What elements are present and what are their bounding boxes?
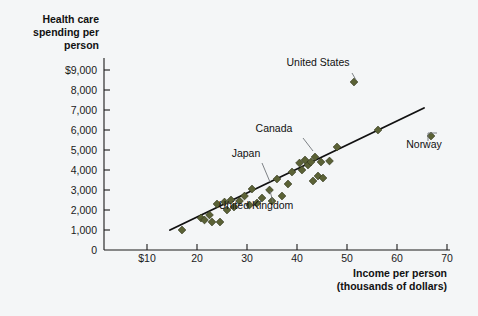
point-annotation-label: Japan <box>232 147 261 159</box>
y-axis-title-line3: person <box>64 39 99 51</box>
trend-line <box>170 108 424 230</box>
trend-line-segment <box>170 108 424 230</box>
x-tick-label: 60 <box>391 252 403 264</box>
chart-page: 01,0002,0003,0004,0005,0006,0007,0008,00… <box>0 0 478 316</box>
y-tick-label: 3,000 <box>71 184 97 196</box>
point-annotation-label: Canada <box>256 122 293 134</box>
y-tick-label: $9,000 <box>65 64 97 76</box>
point-annotation-label: United States <box>286 56 349 68</box>
y-tick-label: 6,000 <box>71 124 97 136</box>
y-tick-label: 2,000 <box>71 204 97 216</box>
axes <box>104 58 450 250</box>
x-tick-label: $10 <box>138 252 156 264</box>
y-tick-label: 8,000 <box>71 84 97 96</box>
data-points <box>178 78 435 234</box>
x-tick-labels: $10203040506070 <box>138 252 453 264</box>
point-annotation-label: Norway <box>406 138 442 150</box>
data-point-marker <box>309 177 317 185</box>
y-axis-title-line2: spending per <box>33 26 99 38</box>
y-tick-label: 5,000 <box>71 144 97 156</box>
x-axis-title-line2: (thousands of dollars) <box>337 280 447 292</box>
y-tick-label: 0 <box>91 244 97 256</box>
tick-marks <box>104 70 447 250</box>
data-point-marker <box>216 218 224 226</box>
data-point-marker <box>350 78 358 86</box>
y-tick-label: 1,000 <box>71 224 97 236</box>
scatter-plot: 01,0002,0003,0004,0005,0006,0007,0008,00… <box>0 0 478 316</box>
x-tick-label: 30 <box>241 252 253 264</box>
leader-line <box>303 138 313 151</box>
x-tick-label: 70 <box>441 252 453 264</box>
x-axis-title-line1: Income per person <box>353 267 447 279</box>
x-tick-label: 40 <box>291 252 303 264</box>
y-axis-title-line1: Health care <box>42 13 99 25</box>
data-point-marker <box>178 226 186 234</box>
data-point-marker <box>266 186 274 194</box>
x-tick-label: 20 <box>191 252 203 264</box>
leader-line <box>262 163 270 182</box>
point-annotation-label: United Kingdom <box>219 199 294 211</box>
data-point-marker <box>333 143 341 151</box>
x-tick-label: 50 <box>341 252 353 264</box>
data-point-marker <box>284 180 292 188</box>
data-point-marker <box>208 218 216 226</box>
data-point-marker <box>374 126 382 134</box>
y-tick-labels: 01,0002,0003,0004,0005,0006,0007,0008,00… <box>65 64 97 256</box>
y-tick-label: 4,000 <box>71 164 97 176</box>
data-point-marker <box>326 157 334 165</box>
y-tick-label: 7,000 <box>71 104 97 116</box>
